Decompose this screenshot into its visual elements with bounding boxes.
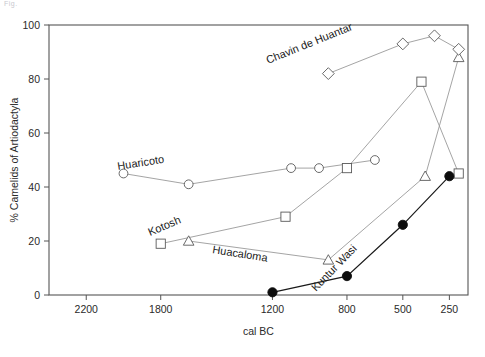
y-tick-label: 0 xyxy=(34,289,40,301)
y-tick-label: 100 xyxy=(22,19,40,31)
header-artifact-text: Fig. xyxy=(4,0,18,7)
square-open-marker-icon xyxy=(454,169,463,178)
x-tick-label: 500 xyxy=(394,303,412,315)
diamond-open-marker-icon xyxy=(397,38,409,50)
series-kuntur-wasi xyxy=(268,172,454,297)
series-line xyxy=(161,82,459,244)
series-kotosh xyxy=(156,77,463,248)
triangle-open-marker-icon xyxy=(420,171,431,180)
diamond-open-marker-icon xyxy=(322,68,334,80)
circle-filled-marker-icon xyxy=(342,272,351,281)
series-line xyxy=(328,36,458,74)
series-labels: HuaricotoKotoshHuacalomaChavin de Huanta… xyxy=(116,20,358,293)
chart-figure: Fig. 220018001200800500250cal BC02040608… xyxy=(0,0,485,357)
series-label-kuntur-wasi: Kuntur Wasi xyxy=(309,242,359,293)
circle-open-marker-icon xyxy=(370,156,379,165)
y-tick-label: 20 xyxy=(28,235,40,247)
circle-open-marker-icon xyxy=(184,180,193,189)
diamond-open-marker-icon xyxy=(429,30,441,42)
square-open-marker-icon xyxy=(281,212,290,221)
y-tick-label: 80 xyxy=(28,73,40,85)
y-tick-label: 40 xyxy=(28,181,40,193)
series-chavin-de-huantar xyxy=(322,30,464,80)
x-tick-label: 800 xyxy=(338,303,356,315)
square-open-marker-icon xyxy=(156,239,165,248)
diamond-open-marker-icon xyxy=(453,43,465,55)
series-label-chavin-de-huantar: Chavin de Huantar xyxy=(264,20,354,66)
x-tick-label: 1200 xyxy=(261,303,285,315)
x-axis-title: cal BC xyxy=(243,325,274,337)
circle-filled-marker-icon xyxy=(268,288,277,297)
y-axis-title: % Camelids of Artiodactyla xyxy=(8,97,20,222)
x-axis: 220018001200800500250cal BC xyxy=(75,295,459,337)
x-tick-label: 2200 xyxy=(75,303,99,315)
square-open-marker-icon xyxy=(417,77,426,86)
circle-filled-marker-icon xyxy=(398,220,407,229)
x-tick-label: 1800 xyxy=(149,303,173,315)
camelid-percentage-line-chart: 220018001200800500250cal BC020406080100%… xyxy=(0,0,485,357)
circle-filled-marker-icon xyxy=(445,172,454,181)
circle-open-marker-icon xyxy=(315,164,324,173)
series-label-huaricoto: Huaricoto xyxy=(116,153,164,172)
series-line xyxy=(189,57,459,260)
y-tick-label: 60 xyxy=(28,127,40,139)
series-line xyxy=(273,176,450,292)
series-label-kotosh: Kotosh xyxy=(146,213,182,237)
series-label-huacaloma: Huacaloma xyxy=(212,243,270,264)
circle-open-marker-icon xyxy=(287,164,296,173)
y-axis: 020406080100% Camelids of Artiodactyla xyxy=(8,19,49,301)
square-open-marker-icon xyxy=(342,164,351,173)
x-tick-label: 250 xyxy=(441,303,459,315)
